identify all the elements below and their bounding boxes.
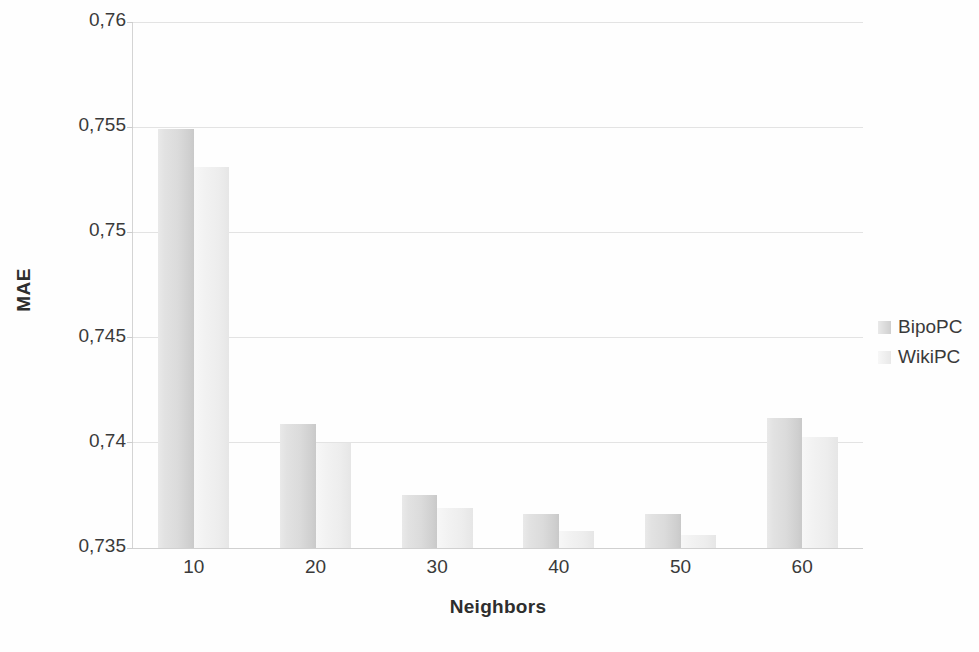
legend-entry-bipopc[interactable]: BipoPC (878, 312, 978, 342)
bar-bipopc-10 (158, 129, 194, 548)
x-axis-tick-label: 60 (767, 556, 837, 578)
bar-bipopc-40 (523, 514, 559, 548)
x-axis-tick-label: 20 (281, 556, 351, 578)
y-axis-tick-mark (127, 127, 133, 128)
y-axis-tick-label: 0,735 (48, 535, 126, 557)
bar-wikipc-60 (802, 437, 838, 549)
plot-area (133, 22, 863, 548)
x-axis-title: Neighbors (133, 596, 863, 618)
legend-swatch-bipopc-icon (878, 321, 891, 334)
x-axis-tick-labels: 102030405060 (133, 556, 863, 586)
y-axis-tick-label: 0,755 (48, 114, 126, 136)
gridline (133, 548, 863, 549)
bar-bipopc-20 (280, 424, 316, 548)
y-axis-tick-mark (127, 548, 133, 549)
y-axis-tick-labels: 0,7350,740,7450,750,7550,76 (44, 0, 126, 652)
y-axis-tick-mark (127, 442, 133, 443)
bar-wikipc-50 (681, 535, 717, 548)
gridline (133, 442, 863, 443)
chart-legend: BipoPCWikiPC (878, 312, 978, 372)
x-axis-tick-label: 50 (646, 556, 716, 578)
bar-wikipc-20 (316, 443, 352, 548)
legend-swatch-wikipc-icon (878, 351, 891, 364)
bar-bipopc-30 (402, 495, 438, 548)
y-axis-tick-label: 0,76 (48, 9, 126, 31)
bar-wikipc-10 (194, 167, 230, 548)
legend-label: BipoPC (898, 316, 962, 338)
y-axis-tick-label: 0,74 (48, 430, 126, 452)
bar-bipopc-60 (767, 418, 803, 548)
bar-bipopc-50 (645, 514, 681, 548)
y-axis-tick-label: 0,745 (48, 325, 126, 347)
y-axis-tick-mark (127, 337, 133, 338)
gridline (133, 22, 863, 23)
x-axis-tick-label: 10 (159, 556, 229, 578)
gridline (133, 232, 863, 233)
x-axis-tick-label: 30 (402, 556, 472, 578)
gridline (133, 337, 863, 338)
y-axis-tick-label: 0,75 (48, 219, 126, 241)
bar-wikipc-30 (437, 508, 473, 548)
legend-label: WikiPC (898, 346, 960, 368)
bar-wikipc-40 (559, 531, 595, 548)
bar-chart-figure: MAE 0,7350,740,7450,750,7550,76 10203040… (0, 0, 979, 652)
legend-entry-wikipc[interactable]: WikiPC (878, 342, 978, 372)
y-axis-tick-mark (127, 232, 133, 233)
gridline (133, 127, 863, 128)
y-axis-tick-mark (127, 22, 133, 23)
x-axis-tick-label: 40 (524, 556, 594, 578)
